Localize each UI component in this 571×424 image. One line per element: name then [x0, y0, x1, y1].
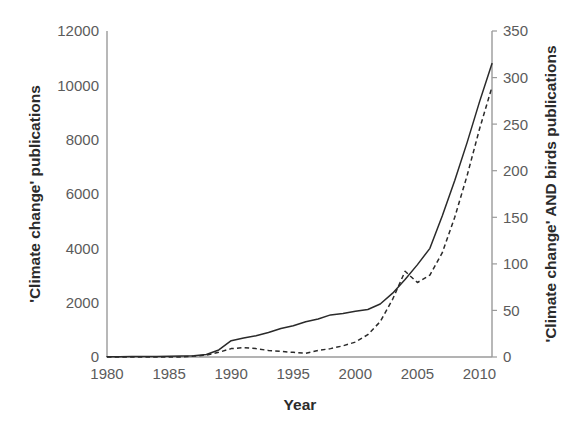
left-tick-label-2: 4000	[66, 240, 99, 257]
left-tick-label-6: 12000	[57, 22, 99, 39]
x-axis-title: Year	[284, 396, 317, 413]
right-tick-label-0: 0	[503, 348, 511, 365]
right-tick-label-1: 50	[503, 302, 520, 319]
x-axis-tick-labels: 1980 1985 1990 1995 2000 2005 2010	[90, 365, 496, 382]
right-tick-label-7: 350	[503, 22, 528, 39]
left-tick-label-1: 2000	[66, 294, 99, 311]
left-axis-title: 'Climate change' publications	[26, 85, 43, 303]
right-tick-label-3: 150	[503, 209, 528, 226]
x-tick-label-1985: 1985	[152, 365, 185, 382]
right-tick-label-5: 250	[503, 116, 528, 133]
right-tick-label-4: 200	[503, 162, 528, 179]
x-tick-label-1995: 1995	[277, 365, 310, 382]
plot-area-background	[107, 31, 492, 357]
left-tick-label-5: 10000	[57, 77, 99, 94]
left-tick-label-3: 6000	[66, 185, 99, 202]
x-tick-label-1980: 1980	[90, 365, 123, 382]
right-axis-ticks	[492, 31, 497, 357]
x-tick-label-2005: 2005	[401, 365, 434, 382]
publications-trend-line-chart: 0 2000 4000 6000 8000 10000 12000 0 50 1…	[0, 0, 571, 424]
right-tick-label-6: 300	[503, 69, 528, 86]
left-tick-label-0: 0	[91, 348, 99, 365]
chart-figure: 0 2000 4000 6000 8000 10000 12000 0 50 1…	[0, 0, 571, 424]
right-tick-label-2: 100	[503, 255, 528, 272]
x-tick-label-1990: 1990	[214, 365, 247, 382]
left-axis-tick-labels: 0 2000 4000 6000 8000 10000 12000	[57, 22, 99, 365]
x-tick-label-2010: 2010	[463, 365, 496, 382]
x-tick-label-2000: 2000	[339, 365, 372, 382]
left-tick-label-4: 8000	[66, 131, 99, 148]
right-axis-title: 'Climate change' AND birds publications	[542, 45, 559, 342]
right-axis-tick-labels: 0 50 100 150 200 250 300 350	[503, 22, 528, 365]
